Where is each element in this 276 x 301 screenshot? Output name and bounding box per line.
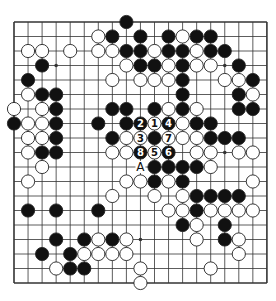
white-stone bbox=[204, 59, 217, 72]
black-stone bbox=[7, 117, 20, 130]
white-stone bbox=[190, 44, 203, 57]
white-stone bbox=[246, 204, 259, 217]
white-stone bbox=[176, 131, 189, 144]
black-stone bbox=[50, 117, 63, 130]
black-stone bbox=[148, 131, 161, 144]
white-stone bbox=[21, 131, 34, 144]
move-number: 6 bbox=[165, 147, 172, 158]
black-stone bbox=[36, 88, 49, 101]
black-stone bbox=[50, 88, 63, 101]
black-stone bbox=[246, 102, 259, 115]
black-stone bbox=[176, 59, 189, 72]
white-stone bbox=[36, 117, 49, 130]
black-stone bbox=[232, 131, 245, 144]
black-stone bbox=[148, 175, 161, 188]
white-stone bbox=[190, 102, 203, 115]
black-stone bbox=[176, 160, 189, 173]
black-stone bbox=[120, 117, 133, 130]
black-stone bbox=[176, 88, 189, 101]
white-stone bbox=[36, 44, 49, 57]
white-stone bbox=[92, 233, 105, 246]
white-stone bbox=[120, 175, 133, 188]
white-stone bbox=[36, 160, 49, 173]
white-stone bbox=[92, 44, 105, 57]
move-number: 3 bbox=[137, 133, 144, 144]
white-stone bbox=[64, 44, 77, 57]
black-stone bbox=[50, 102, 63, 115]
black-stone bbox=[204, 30, 217, 43]
black-stone bbox=[36, 146, 49, 159]
black-stone bbox=[78, 233, 91, 246]
black-stone bbox=[218, 131, 231, 144]
black-stone bbox=[176, 102, 189, 115]
white-stone bbox=[246, 146, 259, 159]
black-stone bbox=[190, 160, 203, 173]
white-stone bbox=[21, 146, 34, 159]
black-stone bbox=[246, 73, 259, 86]
white-stone bbox=[134, 73, 147, 86]
move-number: 5 bbox=[151, 147, 158, 158]
black-stone: 2 bbox=[134, 117, 147, 130]
white-stone: 7 bbox=[162, 131, 175, 144]
black-stone bbox=[36, 59, 49, 72]
black-stone: 6 bbox=[162, 146, 175, 159]
white-stone bbox=[120, 131, 133, 144]
black-stone bbox=[64, 247, 77, 260]
black-stone bbox=[50, 146, 63, 159]
markers-layer: A bbox=[135, 160, 145, 174]
black-stone bbox=[232, 88, 245, 101]
white-stone bbox=[36, 102, 49, 115]
white-stone bbox=[232, 73, 245, 86]
white-stone bbox=[190, 131, 203, 144]
white-stone bbox=[50, 262, 63, 275]
white-stone: 5 bbox=[148, 146, 161, 159]
white-stone bbox=[21, 117, 34, 130]
black-stone bbox=[106, 233, 119, 246]
white-stone bbox=[190, 218, 203, 231]
star-point bbox=[139, 238, 143, 242]
black-stone bbox=[64, 262, 77, 275]
black-stone bbox=[218, 218, 231, 231]
white-stone bbox=[106, 44, 119, 57]
black-stone bbox=[106, 102, 119, 115]
black-stone bbox=[50, 204, 63, 217]
white-stone bbox=[176, 204, 189, 217]
white-stone bbox=[232, 247, 245, 260]
white-stone: 3 bbox=[134, 131, 147, 144]
white-stone bbox=[106, 247, 119, 260]
white-stone bbox=[246, 175, 259, 188]
black-stone bbox=[50, 131, 63, 144]
black-stone bbox=[176, 44, 189, 57]
move-number: 4 bbox=[165, 118, 172, 129]
black-stone bbox=[218, 189, 231, 202]
black-stone bbox=[162, 160, 175, 173]
white-stone bbox=[120, 146, 133, 159]
black-stone bbox=[190, 204, 203, 217]
black-stone bbox=[162, 44, 175, 57]
black-stone bbox=[204, 117, 217, 130]
white-stone bbox=[134, 262, 147, 275]
black-stone bbox=[92, 117, 105, 130]
black-stone bbox=[50, 233, 63, 246]
black-stone bbox=[176, 175, 189, 188]
white-stone: 1 bbox=[148, 117, 161, 130]
black-stone bbox=[120, 102, 133, 115]
white-stone bbox=[218, 204, 231, 217]
white-stone bbox=[106, 189, 119, 202]
white-stone bbox=[21, 175, 34, 188]
move-number: 7 bbox=[165, 133, 172, 144]
white-stone bbox=[7, 102, 20, 115]
black-stone bbox=[134, 30, 147, 43]
white-stone bbox=[190, 146, 203, 159]
white-stone bbox=[162, 204, 175, 217]
black-stone bbox=[190, 30, 203, 43]
go-board: 21437856 A bbox=[0, 0, 276, 301]
white-stone bbox=[204, 262, 217, 275]
white-stone bbox=[148, 189, 161, 202]
black-stone bbox=[232, 59, 245, 72]
white-stone bbox=[232, 233, 245, 246]
black-stone bbox=[106, 131, 119, 144]
star-point bbox=[223, 64, 227, 68]
black-stone bbox=[148, 102, 161, 115]
white-stone bbox=[190, 233, 203, 246]
